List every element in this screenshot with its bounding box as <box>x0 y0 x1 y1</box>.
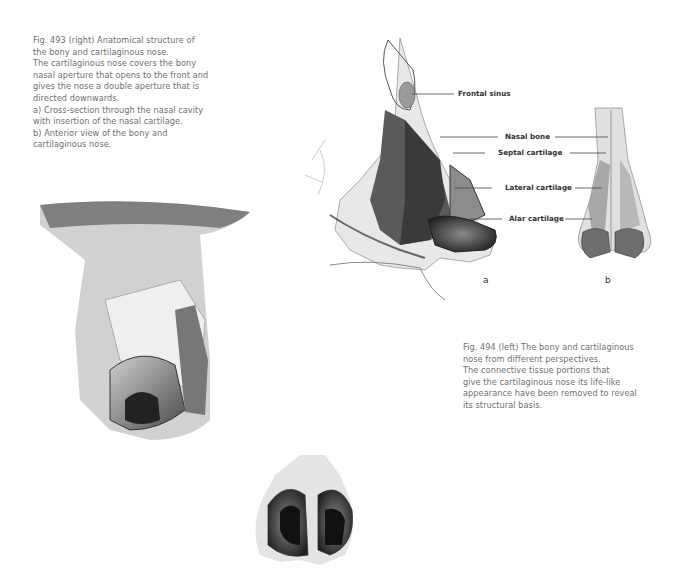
caption-line: b) Anterior view of the bony and <box>33 128 248 140</box>
caption-line: gives the nose a double aperture that is <box>33 81 248 93</box>
caption-line: Fig. 494 (left) The bony and cartilagino… <box>463 342 680 354</box>
caption-line: nose from different perspectives. <box>463 354 680 366</box>
label-lateral-cartilage: Lateral cartilage <box>505 183 572 192</box>
label-alar-cartilage: Alar cartilage <box>509 214 564 223</box>
sublabel-a: a <box>483 275 489 285</box>
caption-line: The cartilaginous nose covers the bony <box>33 58 248 70</box>
caption-line: cartilaginous nose. <box>33 139 248 151</box>
figure-a-cross-section <box>305 38 496 300</box>
figure-b-anterior-view <box>578 108 651 258</box>
caption-line: its structural basis. <box>463 400 680 412</box>
caption-line: Fig. 493 (right) Anatomical structure of <box>33 35 248 47</box>
figure-494-caption: Fig. 494 (left) The bony and cartilagino… <box>463 342 680 412</box>
caption-line: with insertion of the nasal cartilage. <box>33 116 248 128</box>
caption-line: appearance have been removed to reveal <box>463 388 680 400</box>
label-septal-cartilage: Septal cartilage <box>498 148 562 157</box>
figure-basal-view <box>255 455 353 565</box>
caption-line: the bony and cartilaginous nose. <box>33 47 248 59</box>
figure-493-caption: Fig. 493 (right) Anatomical structure of… <box>33 35 248 151</box>
caption-line: directed downwards. <box>33 93 248 105</box>
label-nasal-bone: Nasal bone <box>505 132 550 141</box>
caption-line: a) Cross-section through the nasal cavit… <box>33 105 248 117</box>
sublabel-b: b <box>605 275 611 285</box>
label-frontal-sinus: Frontal sinus <box>458 89 511 98</box>
caption-line: The connective tissue portions that <box>463 365 680 377</box>
figure-oblique-view <box>40 201 250 440</box>
caption-line: nasal aperture that opens to the front a… <box>33 70 248 82</box>
caption-line: give the cartilaginous nose its life-lik… <box>463 377 680 389</box>
